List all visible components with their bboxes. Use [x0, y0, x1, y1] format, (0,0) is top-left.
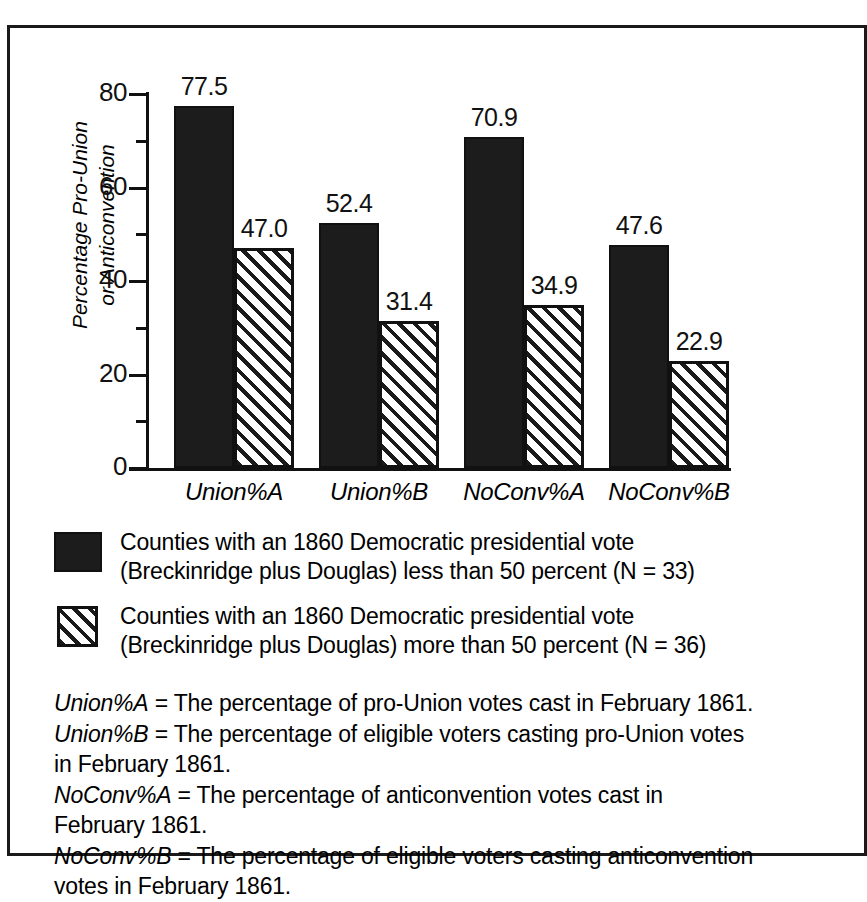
y-axis-tick-label: 60	[71, 173, 127, 199]
x-axis-line	[129, 468, 731, 471]
definitions-block: Union%A = The percentage of pro-Union vo…	[54, 688, 754, 902]
chart-legend: Counties with an 1860 Democratic preside…	[54, 528, 754, 676]
definition-line: Union%B = The percentage of eligible vot…	[54, 719, 754, 779]
legend-swatch-diagonal-hatch-icon	[57, 606, 98, 647]
y-axis-tick-minor	[136, 327, 147, 330]
legend-item: Counties with an 1860 Democratic preside…	[54, 528, 754, 586]
definition-text: = The percentage of eligible voters cast…	[54, 721, 744, 777]
bar-chart-plot: Percentage Pro-Union or Anticonvention 0…	[10, 28, 841, 523]
x-axis-category-label: NoConv%A	[442, 478, 606, 506]
bar	[174, 106, 234, 468]
definition-line: NoConv%B = The percentage of eligible vo…	[54, 841, 754, 901]
bar	[464, 137, 524, 468]
y-axis-tick-minor	[136, 233, 147, 236]
bar	[524, 305, 584, 468]
bar-value-label: 47.0	[241, 216, 288, 241]
bar	[319, 223, 379, 468]
x-axis-category-label: NoConv%B	[587, 478, 751, 506]
x-axis-category-label: Union%B	[297, 478, 461, 506]
y-axis-title-line-1: Percentage Pro-Union	[66, 80, 93, 370]
legend-swatch-solid-black-icon	[54, 532, 102, 572]
bar	[379, 321, 439, 468]
bar-value-label: 34.9	[531, 273, 578, 298]
figure-border: Percentage Pro-Union or Anticonvention 0…	[7, 25, 867, 856]
bar-value-label: 22.9	[676, 329, 723, 354]
bar	[234, 248, 294, 468]
bar	[609, 245, 669, 468]
legend-item-label-line-2: Douglas) more than 50 percent (N = 36)	[307, 632, 707, 658]
definition-line: NoConv%A = The percentage of anticonvent…	[54, 780, 754, 840]
y-axis-tick-minor	[136, 140, 147, 143]
y-axis-tick-major	[129, 374, 147, 377]
bar-value-label: 47.6	[616, 213, 663, 238]
definition-term: NoConv%B	[54, 843, 171, 869]
legend-item-label: Counties with an 1860 Democratic preside…	[120, 528, 754, 586]
x-axis-category-label: Union%A	[152, 478, 316, 506]
legend-item-label: Counties with an 1860 Democratic preside…	[120, 602, 754, 660]
bar-value-label: 31.4	[386, 289, 433, 314]
bar-value-label: 70.9	[471, 105, 518, 130]
y-axis-tick-major	[129, 93, 147, 96]
bar-value-label: 77.5	[181, 74, 228, 99]
y-axis-tick-label: 0	[71, 453, 127, 479]
bar	[669, 361, 729, 468]
y-axis-tick-minor	[136, 420, 147, 423]
y-axis-tick-major	[129, 280, 147, 283]
definition-term: NoConv%A	[54, 782, 171, 808]
y-axis-title: Percentage Pro-Union or Anticonvention	[66, 80, 120, 370]
y-axis-tick-label: 80	[71, 79, 127, 105]
definition-term: Union%B	[54, 721, 149, 747]
definition-line: Union%A = The percentage of pro-Union vo…	[54, 688, 754, 718]
definition-text: = The percentage of pro-Union votes cast…	[149, 690, 754, 716]
y-axis-tick-label: 20	[71, 360, 127, 386]
legend-item: Counties with an 1860 Democratic preside…	[54, 602, 754, 660]
y-axis-tick-major	[129, 187, 147, 190]
bar-value-label: 52.4	[326, 191, 373, 216]
y-axis-tick-label: 40	[71, 266, 127, 292]
y-axis-title-line-2: or Anticonvention	[93, 80, 120, 370]
legend-item-label-line-2: Douglas) less than 50 percent (N = 33)	[307, 558, 695, 584]
y-axis-tick-major	[129, 467, 147, 470]
definition-term: Union%A	[54, 690, 149, 716]
